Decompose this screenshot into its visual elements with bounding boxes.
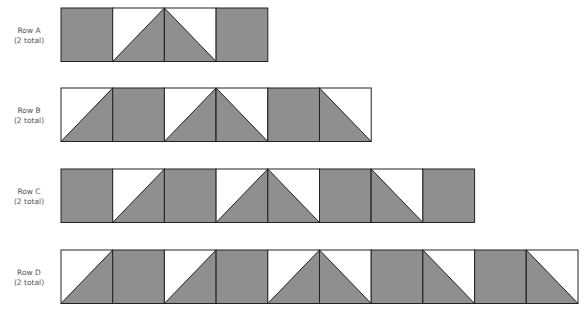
row-name: Row A	[0, 26, 58, 36]
row-a-label: Row A (2 total)	[0, 26, 58, 46]
block-half-square-triangle-up	[61, 250, 113, 304]
block-half-square-triangle-up	[216, 169, 268, 223]
row-name: Row D	[0, 268, 58, 278]
block-half-square-triangle-up	[113, 8, 165, 62]
block-half-square-triangle-down	[423, 250, 475, 304]
block-half-square-triangle-down	[268, 169, 320, 223]
block-solid	[61, 8, 113, 62]
block-solid	[113, 88, 165, 142]
row-a-blocks	[61, 8, 270, 64]
row-count: (2 total)	[0, 116, 58, 126]
row-count: (2 total)	[0, 197, 58, 207]
row-c-label: Row C (2 total)	[0, 187, 58, 207]
block-half-square-triangle-down	[320, 88, 372, 142]
block-half-square-triangle-down	[320, 250, 372, 304]
row-count: (2 total)	[0, 36, 58, 46]
block-half-square-triangle-up	[61, 88, 113, 142]
block-half-square-triangle-down	[526, 250, 578, 304]
block-solid	[268, 88, 320, 142]
block-solid	[475, 250, 527, 304]
block-half-square-triangle-up	[268, 250, 320, 304]
block-half-square-triangle-up	[164, 250, 216, 304]
block-half-square-triangle-down	[216, 88, 268, 142]
row-b-blocks	[61, 88, 373, 144]
block-solid	[216, 8, 268, 62]
row-count: (2 total)	[0, 278, 58, 288]
block-half-square-triangle-down	[371, 169, 423, 223]
row-b-label: Row B (2 total)	[0, 106, 58, 126]
block-solid	[423, 169, 475, 223]
block-solid	[164, 169, 216, 223]
block-half-square-triangle-up	[164, 88, 216, 142]
row-name: Row B	[0, 106, 58, 116]
block-solid	[113, 250, 165, 304]
row-d-label: Row D (2 total)	[0, 268, 58, 288]
block-half-square-triangle-down	[164, 8, 216, 62]
block-half-square-triangle-up	[113, 169, 165, 223]
block-solid	[216, 250, 268, 304]
block-solid	[61, 169, 113, 223]
row-d-blocks	[61, 250, 580, 306]
row-c-blocks	[61, 169, 477, 225]
row-name: Row C	[0, 187, 58, 197]
block-solid	[320, 169, 372, 223]
block-solid	[371, 250, 423, 304]
